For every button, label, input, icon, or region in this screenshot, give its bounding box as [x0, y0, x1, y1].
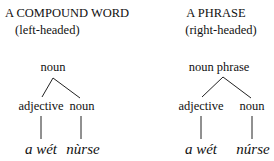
- compound-title: A COMPOUND WORD: [5, 6, 129, 20]
- compound-adjective-node: adjective: [18, 99, 63, 113]
- phrase-root-node: noun phrase: [189, 60, 250, 74]
- branch-left-root-to-noun: [53, 78, 80, 98]
- compound-word-nurse: nùrse: [66, 141, 99, 157]
- compound-root-node: noun: [41, 60, 66, 74]
- phrase-noun-node: noun: [240, 99, 265, 113]
- phrase-word-a-wet: a wét: [185, 141, 217, 157]
- branch-right-root-to-noun: [223, 77, 251, 98]
- compound-noun-node: noun: [70, 99, 95, 113]
- branch-left-root-to-adjective: [42, 78, 53, 97]
- branch-right-root-to-adjective: [202, 77, 223, 97]
- phrase-word-nurse: núrse: [236, 141, 269, 157]
- compound-word-a-wet: a wét: [25, 141, 57, 157]
- phrase-adjective-node: adjective: [178, 99, 223, 113]
- phrase-title: A PHRASE: [186, 6, 245, 20]
- compound-subtitle: (left-headed): [15, 23, 80, 37]
- phrase-subtitle: (right-headed): [185, 23, 257, 37]
